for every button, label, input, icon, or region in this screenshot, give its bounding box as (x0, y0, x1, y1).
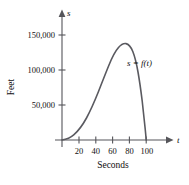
x-axis-title: Seconds (97, 160, 129, 170)
y-tick-label-100000: 100,000 (27, 65, 55, 75)
y-tick-label-150000: 150,000 (27, 30, 55, 40)
x-tick-label-100: 100 (140, 146, 153, 156)
x-axis-arrow-icon (166, 137, 174, 144)
x-tick-label-80: 80 (125, 146, 134, 156)
y-axis-title: Feet (6, 78, 16, 95)
chart-canvas: 150,000 100,000 50,000 20 40 60 80 100 s… (0, 0, 189, 185)
x-axis-variable-label: t (177, 135, 180, 145)
x-tick-label-60: 60 (108, 146, 117, 156)
x-tick-label-40: 40 (92, 146, 101, 156)
y-axis-variable-label: s (67, 8, 71, 18)
x-tick-label-20: 20 (75, 146, 84, 156)
distance-vs-time-chart: 150,000 100,000 50,000 20 40 60 80 100 s… (0, 0, 189, 185)
y-axis-arrow-icon (59, 10, 66, 18)
y-tick-label-50000: 50,000 (32, 100, 55, 110)
curve-equation-label: s = f(t) (127, 58, 152, 68)
